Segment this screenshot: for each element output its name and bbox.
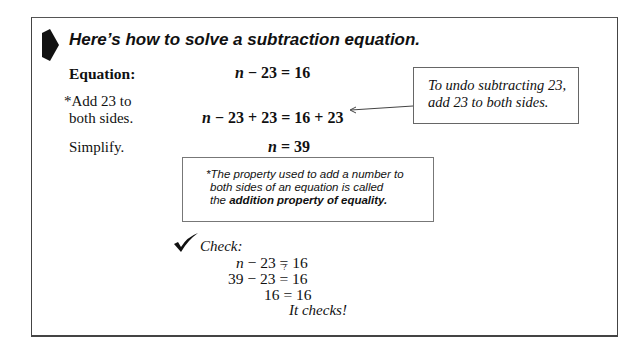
equation-add-both-sides: n − 23 + 23 = 16 + 23 (202, 109, 343, 127)
step-label-equation: Equation: (69, 65, 135, 82)
checkmark-icon (173, 232, 198, 252)
step-label-add-line2: both sides. (69, 110, 133, 127)
callout-line-2: add 23 to both sides. (428, 94, 578, 111)
equation-original: n − 23 = 16 (235, 64, 310, 82)
step-label-add-line1: *Add 23 to (64, 93, 132, 110)
note-line-3: the addition property of equality. (206, 194, 433, 207)
callout-line-1: To undo subtracting 23, (428, 77, 578, 94)
step-label-simplify: Simplify. (69, 139, 124, 156)
arrow-right-icon (42, 29, 59, 61)
equation-simplified: n = 39 (268, 138, 310, 156)
check-result: It checks! (289, 302, 347, 319)
property-term: addition property of equality. (229, 194, 387, 206)
callout-box: To undo subtracting 23, add 23 to both s… (413, 67, 579, 124)
check-label: Check: (200, 238, 242, 255)
note-line-2: both sides of an equation is called (206, 181, 433, 194)
property-note-box: *The property used to add a number to bo… (182, 157, 434, 222)
note-line-1: *The property used to add a number to (206, 168, 433, 181)
section-heading: Here’s how to solve a subtraction equati… (69, 30, 420, 50)
